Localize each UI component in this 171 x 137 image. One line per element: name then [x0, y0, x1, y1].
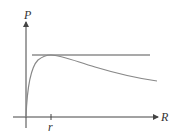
x-axis-label: R — [160, 110, 169, 124]
diagram: P R r — [0, 0, 171, 137]
curve — [26, 55, 157, 117]
y-axis-label: P — [23, 8, 32, 22]
tick-label-r: r — [48, 120, 53, 134]
